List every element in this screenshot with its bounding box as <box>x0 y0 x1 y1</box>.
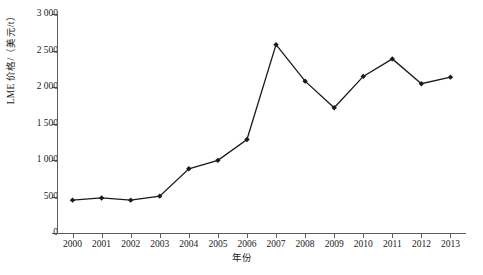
data-point-marker <box>448 74 453 79</box>
data-point-marker <box>70 197 75 202</box>
series-marker-group <box>70 42 453 203</box>
x-axis-title: 年份 <box>0 254 483 264</box>
lme-price-line-chart: LME 价格/（美元/t） 05001 0001 5002 0002 5003 … <box>0 0 483 275</box>
data-point-marker <box>128 197 133 202</box>
series-line <box>73 45 451 200</box>
data-point-marker <box>99 195 104 200</box>
series-plot <box>0 0 483 275</box>
